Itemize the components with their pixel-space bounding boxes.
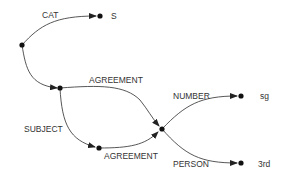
node-third	[238, 160, 243, 165]
edge-agreement-bottom	[99, 132, 158, 148]
node-sg	[238, 93, 243, 98]
label-s: S	[111, 11, 117, 21]
label-cat: CAT	[42, 10, 58, 20]
node-s	[97, 13, 102, 18]
edge-person	[162, 129, 237, 163]
label-number: NUMBER	[173, 91, 210, 101]
edge-root-subj	[22, 45, 57, 88]
label-sg: sg	[260, 91, 269, 101]
label-agreement-top: AGREEMENT	[89, 75, 143, 85]
node-agr	[159, 126, 164, 131]
edge-subject	[60, 88, 95, 147]
label-agreement-bottom: AGREEMENT	[104, 151, 158, 161]
edge-agreement-top	[60, 86, 159, 126]
edge-cat	[22, 16, 96, 45]
label-subject: SUBJECT	[24, 124, 63, 134]
feature-graph: CAT S AGREEMENT SUBJECT AGREEMENT NUMBER…	[0, 0, 284, 182]
node-root	[19, 42, 24, 47]
node-agr-lower	[96, 145, 101, 150]
node-subj	[57, 85, 62, 90]
label-person: PERSON	[173, 159, 209, 169]
label-third: 3rd	[258, 159, 271, 169]
